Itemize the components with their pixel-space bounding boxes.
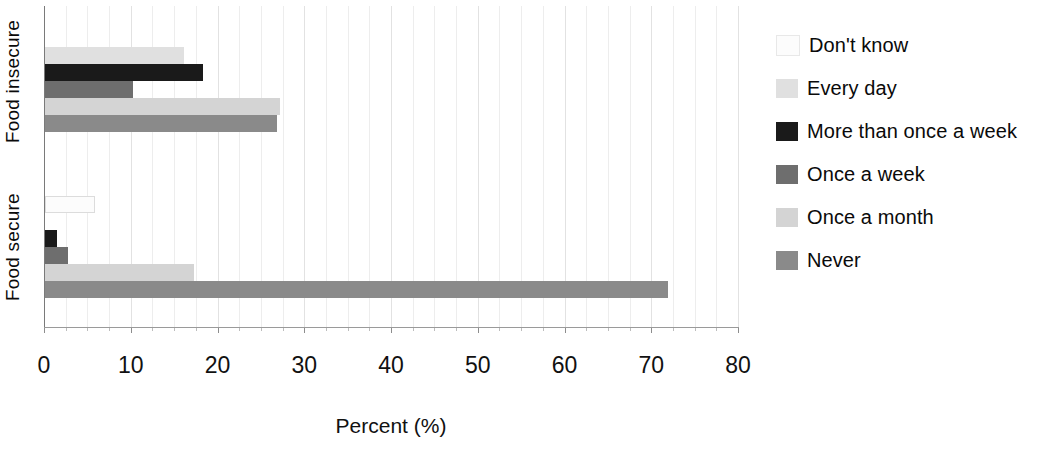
bar xyxy=(45,115,277,132)
legend-item[interactable]: Once a month xyxy=(776,196,1056,239)
x-axis-tick xyxy=(391,328,392,333)
bar xyxy=(45,196,95,213)
x-axis-tick-label: 70 xyxy=(638,352,664,379)
x-axis-tick xyxy=(218,328,219,333)
x-axis-tick xyxy=(131,328,132,333)
bar xyxy=(45,64,203,81)
gridline xyxy=(716,6,717,327)
gridline xyxy=(434,6,435,327)
x-axis-tick-label: 20 xyxy=(205,352,231,379)
bar xyxy=(45,247,68,264)
x-axis-tick xyxy=(261,328,262,331)
x-axis-tick xyxy=(87,328,88,331)
gridline xyxy=(283,6,284,327)
bar xyxy=(45,47,184,64)
legend-item-label: Once a month xyxy=(807,206,934,229)
gridline xyxy=(586,6,587,327)
x-axis-tick xyxy=(434,328,435,331)
y-axis-line xyxy=(44,6,45,328)
gridline xyxy=(521,6,522,327)
legend-item-label: Once a week xyxy=(807,163,925,186)
x-axis-tick xyxy=(196,328,197,331)
x-axis-tick xyxy=(716,328,717,331)
legend-item-label: Every day xyxy=(807,77,897,100)
gridline xyxy=(413,6,414,327)
x-axis-tick xyxy=(673,328,674,331)
gridline xyxy=(673,6,674,327)
gridline xyxy=(608,6,609,327)
x-axis-tick xyxy=(738,328,739,333)
x-axis-tick xyxy=(630,328,631,331)
x-axis-tick xyxy=(478,328,479,333)
gridline xyxy=(738,6,739,327)
gridline xyxy=(543,6,544,327)
x-axis-tick xyxy=(326,328,327,331)
x-axis-tick xyxy=(283,328,284,331)
x-axis-tick-label: 10 xyxy=(118,352,144,379)
gridline xyxy=(261,6,262,327)
bar xyxy=(45,230,57,247)
gridline xyxy=(565,6,566,327)
x-axis-tick xyxy=(456,328,457,331)
legend-swatch-icon xyxy=(776,208,798,227)
x-axis-tick-label: 0 xyxy=(38,352,51,379)
x-axis-tick xyxy=(369,328,370,331)
y-axis-group-label-food-insecure: Food insecure xyxy=(2,6,24,156)
gridline xyxy=(239,6,240,327)
x-axis-tick xyxy=(521,328,522,331)
x-axis-tick-label: 50 xyxy=(465,352,491,379)
x-axis-tick xyxy=(651,328,652,333)
x-axis-tick xyxy=(152,328,153,331)
gridline xyxy=(651,6,652,327)
legend-item[interactable]: Every day xyxy=(776,67,1056,110)
bar xyxy=(45,264,194,281)
gridline xyxy=(499,6,500,327)
gridline xyxy=(695,6,696,327)
gridline xyxy=(218,6,219,327)
x-axis-tick xyxy=(499,328,500,331)
legend-swatch-icon xyxy=(776,122,798,141)
gridline xyxy=(326,6,327,327)
x-axis-tick-label: 30 xyxy=(291,352,317,379)
x-axis-tick xyxy=(413,328,414,331)
x-axis-tick xyxy=(586,328,587,331)
gridline xyxy=(456,6,457,327)
legend-item-label: Never xyxy=(807,249,861,272)
x-axis-tick xyxy=(608,328,609,331)
legend-item[interactable]: Never xyxy=(776,239,1056,282)
x-axis-tick xyxy=(304,328,305,333)
gridline xyxy=(348,6,349,327)
gridline xyxy=(304,6,305,327)
x-axis-tick xyxy=(348,328,349,331)
gridline xyxy=(391,6,392,327)
legend-item[interactable]: More than once a week xyxy=(776,110,1056,153)
x-axis-tick xyxy=(239,328,240,331)
x-axis-tick-label: 80 xyxy=(725,352,751,379)
gridline xyxy=(478,6,479,327)
chart-container: Food insecure Food secure 01020304050607… xyxy=(0,0,1060,449)
legend-swatch-icon xyxy=(776,165,798,184)
legend-swatch-icon xyxy=(776,79,798,98)
x-axis-tick xyxy=(66,328,67,331)
legend-item[interactable]: Don't know xyxy=(776,24,1056,67)
bar xyxy=(45,81,133,98)
x-axis-tick-label: 40 xyxy=(378,352,404,379)
legend-swatch-icon xyxy=(776,251,798,270)
legend-item[interactable]: Once a week xyxy=(776,153,1056,196)
legend-item-label: More than once a week xyxy=(807,120,1017,143)
x-axis-tick xyxy=(565,328,566,333)
x-axis-tick xyxy=(174,328,175,331)
gridline xyxy=(369,6,370,327)
x-axis-tick xyxy=(109,328,110,331)
x-axis-tick xyxy=(695,328,696,331)
bar xyxy=(45,281,668,298)
gridline xyxy=(630,6,631,327)
gridline xyxy=(196,6,197,327)
x-axis-tick xyxy=(44,328,45,333)
bar xyxy=(45,98,280,115)
legend-swatch-icon xyxy=(776,35,800,56)
plot-area xyxy=(44,6,738,328)
x-axis-tick xyxy=(543,328,544,331)
legend-item-label: Don't know xyxy=(809,34,908,57)
x-axis-tick-label: 60 xyxy=(552,352,578,379)
